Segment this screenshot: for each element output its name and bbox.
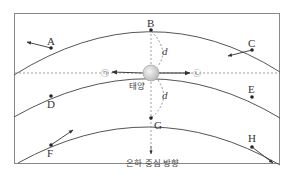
star-g-label: G [154, 119, 162, 131]
star-a-label: A [47, 35, 55, 47]
distance-arc-upper [151, 31, 163, 66]
distance-label-upper: d [162, 45, 168, 57]
sun-label: 태양 [129, 81, 145, 91]
star-g [149, 116, 153, 120]
distance-label-lower: d [162, 89, 168, 101]
star-c-label: C [248, 37, 255, 49]
galactic-center-direction-label: 은하 중심 방향 [126, 158, 179, 168]
star-b-label: B [147, 17, 154, 29]
star-h-label: H [248, 132, 256, 144]
star-e-label: E [248, 83, 255, 95]
star-h-velocity-arrow [252, 147, 273, 163]
galactic-orbit-diagram: d d ㉠ ㉡ 태양 A B C D E F G H 은하 중심 방향 [0, 0, 299, 184]
star-d-label: D [47, 98, 55, 110]
velocity-label-left: ㉠ [101, 69, 109, 78]
velocity-label-right: ㉡ [193, 69, 201, 78]
star-e [250, 95, 254, 99]
star-f-label: F [47, 147, 53, 159]
sun-icon [143, 65, 159, 81]
